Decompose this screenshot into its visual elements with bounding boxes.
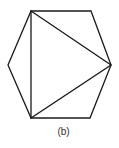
hexagon [8, 11, 111, 118]
figure-caption: (b) [0, 126, 119, 137]
inscribed-triangle [31, 11, 111, 118]
